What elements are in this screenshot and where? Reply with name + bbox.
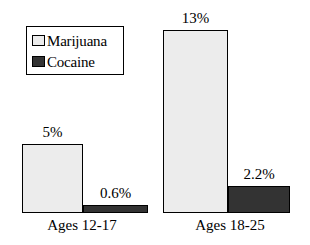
bar-cocaine-ages-18-25 — [228, 186, 290, 213]
plot-area: 5% 0.6% 13% 2.2% — [0, 0, 310, 213]
bar-marijuana-ages-18-25 — [163, 30, 228, 213]
bar-value-label-cocaine-ages-18-25: 2.2% — [228, 166, 290, 182]
bar-cocaine-ages-12-17 — [83, 205, 148, 213]
bar-chart: Marijuana Cocaine 5% 0.6% 13% 2.2% Ages … — [0, 0, 310, 245]
category-label-ages-18-25: Ages 18-25 — [157, 216, 303, 234]
bar-value-label-cocaine-ages-12-17: 0.6% — [83, 185, 148, 201]
bar-value-label-marijuana-ages-12-17: 5% — [22, 124, 83, 140]
category-label-ages-12-17: Ages 12-17 — [12, 216, 152, 234]
bar-value-label-marijuana-ages-18-25: 13% — [163, 10, 228, 26]
bar-marijuana-ages-12-17 — [22, 144, 83, 213]
